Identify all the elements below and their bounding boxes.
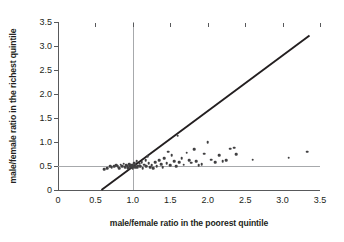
data-point <box>233 146 236 149</box>
scatter-chart-figure: male/female ratio in the richest quintil… <box>0 0 344 242</box>
data-point <box>150 164 153 167</box>
data-point <box>147 155 150 158</box>
y-tick-label: 0.5 <box>39 161 52 171</box>
data-point <box>170 154 173 157</box>
x-tick-label: 3.0 <box>276 195 289 205</box>
data-point <box>287 157 290 160</box>
data-point <box>158 159 161 162</box>
y-tick-mark <box>54 118 58 119</box>
data-point <box>141 167 144 170</box>
data-point <box>152 167 155 170</box>
data-point <box>203 152 206 155</box>
y-tick-mark <box>54 46 58 47</box>
data-point <box>221 160 224 163</box>
y-tick-label: 2.0 <box>39 89 52 99</box>
x-axis-title: male/female ratio in the poorest quintil… <box>58 218 320 228</box>
data-point <box>173 160 176 163</box>
data-point <box>154 161 157 164</box>
x-tick-mark <box>320 23 321 27</box>
x-tick-label: 1.5 <box>164 195 177 205</box>
data-point <box>190 161 193 164</box>
x-tick-mark <box>283 23 284 27</box>
y-tick-label: 3.5 <box>39 17 52 27</box>
data-point <box>175 165 178 168</box>
data-point <box>163 157 166 160</box>
data-point <box>167 150 170 153</box>
x-tick-mark <box>170 23 171 27</box>
data-point <box>144 159 147 162</box>
data-point <box>210 158 213 161</box>
data-point <box>306 150 309 153</box>
y-tick-mark <box>54 22 58 23</box>
plot-area: 00.51.01.52.02.53.03.500.51.01.52.02.53.… <box>58 22 320 190</box>
data-point <box>160 163 163 166</box>
x-axis-spine <box>58 190 320 191</box>
y-tick-label: 0 <box>47 185 52 195</box>
data-point <box>193 148 196 151</box>
data-point <box>229 147 232 150</box>
data-point <box>176 134 179 137</box>
x-tick-label: 0.5 <box>89 195 102 205</box>
data-point <box>195 160 198 163</box>
data-point <box>169 164 172 167</box>
data-point <box>180 157 183 160</box>
data-point <box>165 162 168 165</box>
x-tick-label: 0 <box>55 195 60 205</box>
data-point <box>156 165 159 168</box>
data-point <box>225 159 228 162</box>
identity-reference-line <box>58 22 320 190</box>
data-point <box>178 161 181 164</box>
data-point <box>200 163 203 166</box>
data-point <box>145 165 148 168</box>
data-point <box>235 153 238 156</box>
data-point <box>218 154 221 157</box>
y-tick-mark <box>54 190 58 191</box>
y-tick-mark <box>54 142 58 143</box>
data-point <box>214 161 217 164</box>
data-point <box>206 141 209 144</box>
x-tick-mark <box>208 23 209 27</box>
y-tick-label: 1.5 <box>39 113 52 123</box>
x-tick-label: 2.0 <box>201 195 214 205</box>
data-point <box>185 151 188 154</box>
data-point <box>162 166 165 169</box>
x-tick-label: 3.5 <box>314 195 327 205</box>
x-tick-mark <box>95 23 96 27</box>
y-tick-label: 1.0 <box>39 137 52 147</box>
x-tick-label: 2.5 <box>239 195 252 205</box>
y-tick-mark <box>54 166 58 167</box>
data-point <box>251 158 254 161</box>
data-point <box>182 163 185 166</box>
y-tick-label: 2.5 <box>39 65 52 75</box>
x-tick-mark <box>245 23 246 27</box>
x-tick-label: 1.0 <box>127 195 140 205</box>
x-tick-mark <box>58 23 59 27</box>
y-tick-mark <box>54 70 58 71</box>
y-tick-mark <box>54 94 58 95</box>
x-tick-mark <box>133 23 134 27</box>
y-tick-label: 3.0 <box>39 41 52 51</box>
y-axis-title: male/female ratio in the richest quintil… <box>6 22 20 190</box>
